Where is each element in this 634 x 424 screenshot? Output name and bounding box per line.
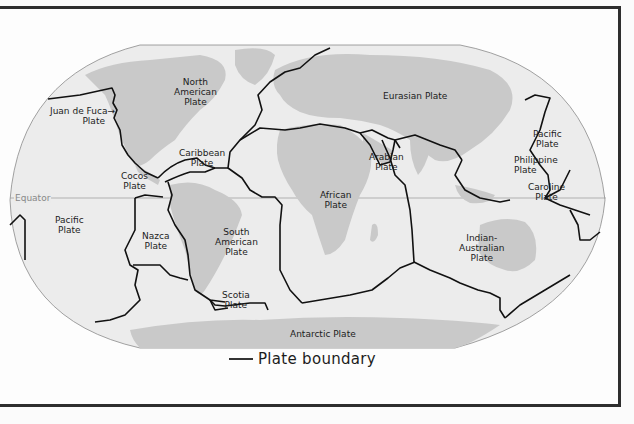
legend-label: Plate boundary [258, 350, 376, 368]
label-pacific-plate-east: PacificPlate [533, 129, 562, 149]
label-nazca-plate: NazcaPlate [142, 231, 169, 251]
label-african-plate: AfricanPlate [320, 190, 351, 210]
label-arabian-plate: ArabianPlate [369, 152, 404, 172]
label-caribbean-plate: CaribbeanPlate [179, 148, 225, 168]
label-north-american-plate: NorthAmericanPlate [174, 77, 217, 107]
label-caroline-plate: CarolinePlate [528, 182, 565, 202]
plate-boundary-line-swatch [229, 358, 253, 360]
equator-label: Equator [14, 193, 51, 203]
legend: Plate boundary [229, 350, 376, 368]
label-indian-australian-plate: Indian-AustralianPlate [459, 233, 505, 263]
label-scotia-plate: ScotiaPlate [222, 290, 250, 310]
label-south-american-plate: SouthAmericanPlate [215, 227, 258, 257]
label-antarctic-plate: Antarctic Plate [290, 329, 356, 339]
label-philippine-plate: PhilippinePlate [514, 155, 558, 175]
label-cocos-plate: CocosPlate [121, 171, 148, 191]
label-juan-de-fuca-plate: Juan de Fuca→Plate [50, 106, 115, 126]
label-pacific-plate-west: PacificPlate [55, 215, 84, 235]
label-eurasian-plate: Eurasian Plate [383, 91, 447, 101]
